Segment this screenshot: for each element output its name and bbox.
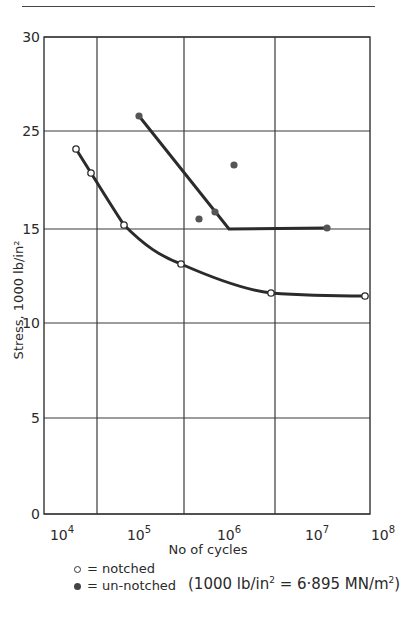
note-part-2: = 6·895 MN/m [275,575,389,593]
open-circle-marker [178,261,184,267]
x-tick-label: 104 [50,524,74,543]
filled-circle-marker [323,224,330,231]
unnotched-fit-line [139,116,327,229]
legend-unnotched: = un-notched [74,578,176,593]
y-tick-label: 30 [22,29,40,45]
open-circle-marker [121,222,127,228]
unnotched-data-points [135,112,330,231]
filled-circle-marker [135,112,142,119]
note-part-1: (1000 lb/in [188,575,269,593]
y-tick-label: 5 [31,410,40,426]
notched-fit-curve [76,149,365,296]
x-tick-label: 105 [127,524,151,543]
legend-notched-label: = notched [87,561,155,576]
y-axis-label: Stress, 1000 lb/in² [11,241,26,360]
unit-conversion-note: (1000 lb/in2 = 6·895 MN/m2) [188,575,400,593]
legend-unnotched-label: = un-notched [87,578,176,593]
y-tick-label: 0 [31,506,40,522]
open-circle-marker [362,293,368,299]
filled-circle-icon [74,583,81,590]
filled-circle-marker [211,208,218,215]
x-axis-label: No of cycles [169,542,248,557]
notched-data-points [73,146,368,299]
x-tick-label: 106 [217,524,241,543]
filled-circle-marker [230,161,237,168]
x-tick-label: 107 [305,524,329,543]
y-tick-label: 15 [22,221,40,237]
filled-circle-marker [195,215,202,222]
x-axis-ticks: 104105106107108 [50,524,395,543]
open-circle-marker [73,146,79,152]
open-circle-marker [268,290,274,296]
x-tick-label: 108 [371,524,395,543]
open-circle-icon [74,566,81,573]
y-tick-label: 25 [22,123,40,139]
sn-chart: 3025151050 104105106107108 Stress, 1000 … [0,0,411,560]
open-circle-marker [88,170,94,176]
legend-notched: = notched [74,561,155,576]
note-part-3: ) [394,575,400,593]
